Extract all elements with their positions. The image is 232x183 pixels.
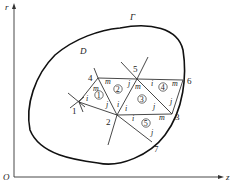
local-label: m <box>93 84 99 93</box>
node-4-label: 4 <box>88 73 93 83</box>
origin-label: O <box>3 172 10 182</box>
element-4-label: 4 <box>161 83 165 92</box>
element-5-label: 5 <box>144 119 148 128</box>
fem-mesh-diagram: r z O Γ D 1 2 3 4 5 6 7 1 <box>0 0 232 183</box>
z-axis-label: z <box>225 172 230 182</box>
r-axis-arrow-icon <box>12 3 16 9</box>
local-label: j <box>152 102 156 111</box>
local-label: j <box>150 128 154 137</box>
node-5-label: 5 <box>133 64 138 74</box>
local-label: m <box>159 113 165 122</box>
node-3-label: 3 <box>175 112 180 122</box>
node-6-label: 6 <box>187 76 192 86</box>
boundary-label: Γ <box>129 12 136 22</box>
local-label: j <box>127 79 131 88</box>
local-label: i <box>132 114 134 123</box>
local-label: j <box>105 100 109 109</box>
node-1-label: 1 <box>72 106 77 116</box>
element-3-label: 3 <box>140 95 144 104</box>
local-label: m <box>135 82 141 91</box>
r-axis-label: r <box>5 2 9 12</box>
node-7-label: 7 <box>154 144 159 154</box>
local-label: i <box>151 79 153 88</box>
local-label: i <box>86 94 88 103</box>
z-axis-arrow-icon <box>218 175 224 179</box>
node-2-label: 2 <box>106 117 111 127</box>
local-label: m <box>172 79 178 88</box>
local-label: i <box>117 100 119 109</box>
element-2-label: 2 <box>116 85 120 94</box>
region-label: D <box>79 46 87 56</box>
local-label: m <box>105 77 111 86</box>
local-label: i <box>125 104 127 113</box>
local-label: j <box>169 97 173 106</box>
